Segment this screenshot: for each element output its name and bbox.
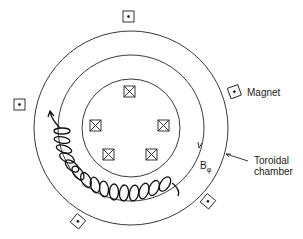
chamber-label: Toroidal chamber bbox=[254, 155, 293, 177]
field-subscript: φ bbox=[207, 166, 212, 173]
core-coils bbox=[90, 86, 169, 160]
chamber-label-line2: chamber bbox=[254, 166, 293, 177]
field-label: Bφ bbox=[200, 160, 211, 175]
chamber-pointer bbox=[226, 154, 248, 161]
chamber-label-line1: Toroidal bbox=[254, 155, 293, 166]
toroidal-chamber-diagram bbox=[0, 0, 303, 239]
field-symbol: B bbox=[200, 160, 207, 171]
magnet-label: Magnet bbox=[247, 87, 280, 98]
